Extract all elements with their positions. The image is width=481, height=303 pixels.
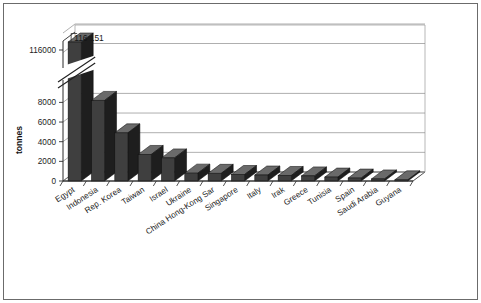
y-axis-title: tonnes <box>14 126 24 154</box>
chart-container: 02000400060008000116000EgyptIndonesiaRep… <box>0 0 481 303</box>
bar-front-face <box>161 158 174 181</box>
bar-front-face <box>231 175 244 181</box>
bar-front-face <box>208 173 221 181</box>
bar-front-face <box>325 177 338 181</box>
bar-data-label: 116 151 <box>74 33 104 43</box>
y-tick-label: 4000 <box>38 138 57 147</box>
bar-rep-korea <box>115 124 140 181</box>
bar-front-face <box>255 175 268 181</box>
bar-front-face <box>115 133 128 181</box>
bar-front-face <box>301 176 314 181</box>
bar-front-face <box>278 175 291 181</box>
bar-egypt <box>68 33 93 181</box>
bar-indonesia <box>91 91 116 181</box>
y-tick-label: 0 <box>51 177 56 186</box>
bar-front-face <box>91 100 104 181</box>
bar-front-face <box>138 154 151 181</box>
bar-front-face <box>185 173 198 181</box>
y-tick-label: 2000 <box>38 157 57 166</box>
data-labels: 116 151 <box>71 33 104 43</box>
y-tick-label: 116000 <box>29 46 56 55</box>
bar-chart: 02000400060008000116000EgyptIndonesiaRep… <box>0 0 481 303</box>
y-tick-label: 6000 <box>38 118 57 127</box>
y-tick-label: 8000 <box>38 98 57 107</box>
